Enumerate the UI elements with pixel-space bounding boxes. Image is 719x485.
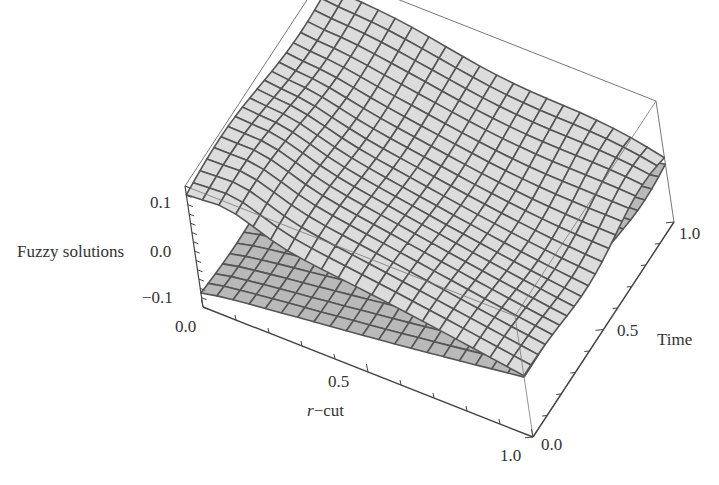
x-tick-label-start: 0.0 bbox=[175, 318, 196, 335]
fuzzy-surfaces bbox=[186, 0, 665, 377]
x-axis-title-rest: −cut bbox=[314, 401, 344, 420]
x-axis-title: r−cut bbox=[307, 402, 344, 419]
z-tick-label-bottom: −0.1 bbox=[142, 289, 173, 306]
z-axis-title: Fuzzy solutions bbox=[17, 243, 124, 260]
z-tick-label-mid: 0.0 bbox=[150, 243, 171, 260]
x-tick-label-end: 1.0 bbox=[500, 447, 521, 464]
y-tick-label-start: 0.0 bbox=[541, 436, 562, 453]
y-tick-label-end: 1.0 bbox=[679, 225, 700, 242]
y-axis-title: Time bbox=[657, 331, 692, 348]
x-axis-title-italic: r bbox=[307, 401, 314, 420]
x-tick-label-mid: 0.5 bbox=[328, 373, 349, 390]
z-tick-label-top: 0.1 bbox=[150, 194, 171, 211]
y-tick-label-mid: 0.5 bbox=[617, 322, 638, 339]
